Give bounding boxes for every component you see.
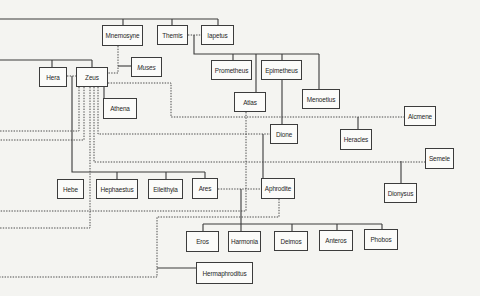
node-hermaphroditus: Hermaphroditus	[196, 262, 253, 284]
node-hera: Hera	[39, 67, 67, 87]
family-tree-diagram: Mnemosyne Themis Iapetus Hera Zeus Muses…	[0, 0, 480, 296]
node-phobos: Phobos	[364, 229, 398, 250]
node-atlas: Atlas	[234, 92, 266, 112]
node-anteros: Anteros	[319, 230, 353, 251]
node-dionysus: Dionysus	[384, 183, 417, 203]
node-eros: Eros	[186, 231, 219, 252]
node-themis: Themis	[157, 25, 188, 45]
node-iapetus: Iapetus	[201, 25, 234, 45]
node-zeus: Zeus	[76, 67, 108, 87]
node-deimos: Deimos	[274, 231, 308, 251]
node-mnemosyne: Mnemosyne	[102, 25, 143, 46]
node-dione: Dione	[270, 124, 298, 144]
node-alcmene: Alcmene	[404, 106, 436, 126]
node-eileithyia: Eileithyia	[148, 179, 183, 199]
node-muses: Muses	[131, 57, 162, 77]
node-menoetius: Menoetius	[302, 89, 340, 109]
node-athena: Athena	[103, 98, 137, 119]
node-prometheus: Prometheus	[211, 60, 252, 80]
node-heracles: Heracles	[340, 129, 372, 150]
node-semele: Semele	[425, 148, 454, 169]
node-aphrodite: Aphrodite	[261, 178, 295, 199]
node-epimetheus: Epimetheus	[261, 60, 302, 80]
node-harmonia: Harmonia	[228, 231, 261, 252]
node-ares: Ares	[192, 178, 218, 199]
node-hebe: Hebe	[57, 179, 84, 199]
node-hephaestus: Hephaestus	[96, 179, 138, 199]
